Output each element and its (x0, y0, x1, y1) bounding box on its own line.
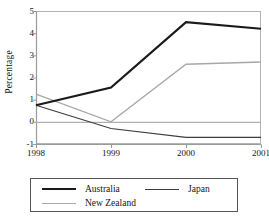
axis-ticks (33, 12, 262, 149)
line-chart-figure: Percentage 543210-1 1998199920002001 Aus… (0, 0, 269, 217)
x-tick-label: 2001 (239, 148, 269, 158)
legend-swatch-line-icon (42, 203, 76, 204)
legend-item-label: New Zealand (85, 198, 136, 209)
data-series-group (36, 22, 261, 137)
legend-item-australia[interactable]: Australia (42, 182, 120, 196)
legend-swatch-line-icon (145, 189, 179, 190)
plot-svg (0, 0, 269, 168)
plot-area: Percentage 543210-1 1998199920002001 (0, 0, 269, 168)
plot-frame (36, 11, 261, 145)
legend-items: AustraliaJapanNew Zealand (31, 179, 237, 211)
chart-legend: AustraliaJapanNew Zealand (30, 178, 238, 212)
series-line-japan (36, 105, 261, 137)
legend-item-japan[interactable]: Japan (145, 182, 210, 196)
legend-item-label: Japan (188, 184, 210, 195)
x-tick-label: 1998 (14, 148, 58, 158)
legend-swatch-line-icon (42, 188, 76, 190)
x-tick-label: 1999 (89, 148, 133, 158)
x-axis-tick-labels: 1998199920002001 (0, 148, 269, 164)
x-tick-label: 2000 (164, 148, 208, 158)
legend-item-new-zealand[interactable]: New Zealand (42, 196, 136, 210)
legend-item-label: Australia (85, 184, 120, 195)
series-line-new-zealand (36, 62, 261, 122)
